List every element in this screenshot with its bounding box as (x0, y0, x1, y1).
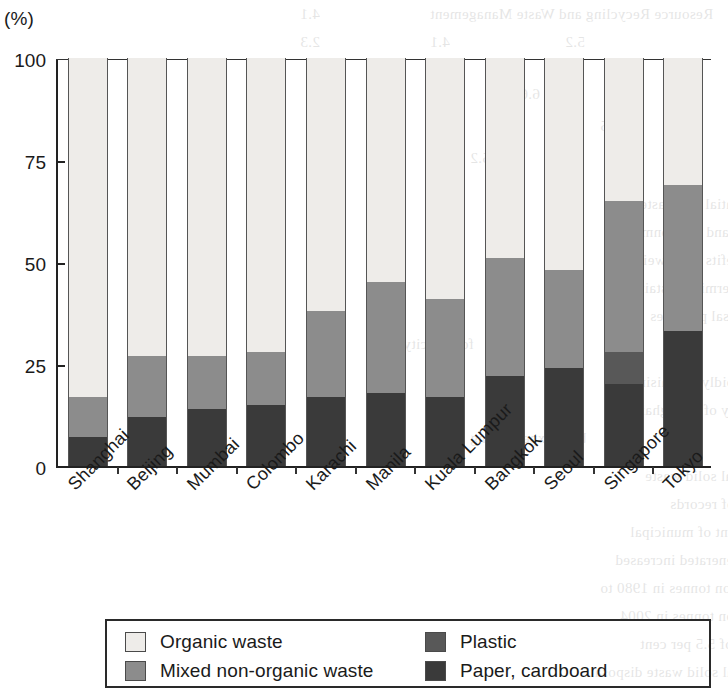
bar-segment-mixed (247, 352, 285, 405)
bar-colombo (246, 58, 286, 466)
legend-label: Paper, cardboard (460, 660, 607, 682)
bar-segment-organic (367, 58, 405, 282)
y-tick-label: 0 (0, 459, 46, 478)
bar-tokyo (663, 58, 703, 466)
x-tick-mark (176, 467, 178, 474)
bar-segment-organic (128, 58, 166, 356)
y-tick-label: 50 (0, 255, 46, 274)
bar-segment-organic (426, 58, 464, 299)
bar-manila (366, 58, 406, 466)
bar-segment-organic (486, 58, 524, 258)
x-tick-mark (414, 467, 416, 474)
bar-segment-mixed (426, 299, 464, 397)
bar-segment-mixed (188, 356, 226, 409)
legend-column-left: Organic wasteMixed non-organic waste (125, 627, 374, 685)
bar-segment-mixed (307, 311, 345, 397)
x-tick-mark (593, 467, 595, 474)
y-tick-label: 100 (0, 51, 46, 70)
bar-segment-organic (545, 58, 583, 270)
legend-column-right: PlasticPaper, cardboard (425, 627, 607, 685)
legend-label: Plastic (460, 631, 517, 653)
bar-segment-plastic (605, 352, 643, 385)
legend-swatch-mixed-icon (125, 661, 146, 681)
legend-item-paper[interactable]: Paper, cardboard (425, 656, 607, 685)
bar-segment-mixed (605, 201, 643, 352)
legend-swatch-paper-icon (425, 661, 446, 681)
bar-segment-mixed (128, 356, 166, 417)
legend-label: Organic waste (160, 631, 283, 653)
y-axis-unit-label: (%) (4, 8, 34, 30)
x-tick-mark (533, 467, 535, 474)
bar-mumbai (187, 58, 227, 466)
y-tick-label: 25 (0, 357, 46, 376)
bar-beijing (127, 58, 167, 466)
bar-segment-organic (664, 58, 702, 184)
bar-seoul (544, 58, 584, 466)
legend-item-mixed[interactable]: Mixed non-organic waste (125, 656, 374, 685)
x-tick-mark (652, 467, 654, 474)
bar-segment-mixed (367, 282, 405, 392)
legend-swatch-organic-icon (125, 632, 146, 652)
bar-shanghai (68, 58, 108, 466)
bar-segment-organic (247, 58, 285, 352)
legend-label: Mixed non-organic waste (160, 660, 374, 682)
stacked-bar-chart: (%) 1007550250 ShanghaiBeijingMumbaiColo… (0, 0, 728, 688)
x-tick-mark (474, 467, 476, 474)
bar-segment-mixed (545, 270, 583, 368)
bar-singapore (604, 58, 644, 466)
x-tick-mark (236, 467, 238, 474)
legend-item-plastic[interactable]: Plastic (425, 627, 607, 656)
bar-karachi (306, 58, 346, 466)
chart-legend: Organic wasteMixed non-organic waste Pla… (105, 619, 711, 688)
plot-area (56, 60, 711, 468)
x-tick-mark (355, 467, 357, 474)
legend-swatch-plastic-icon (425, 632, 446, 652)
bar-segment-organic (605, 58, 643, 201)
bar-segment-organic (69, 58, 107, 397)
bar-segment-mixed (486, 258, 524, 376)
x-tick-mark (295, 467, 297, 474)
legend-item-organic[interactable]: Organic waste (125, 627, 374, 656)
bar-segment-organic (188, 58, 226, 356)
y-tick-label: 75 (0, 153, 46, 172)
bar-segment-mixed (69, 397, 107, 438)
bar-segment-organic (307, 58, 345, 311)
bar-kuala-lumpur (425, 58, 465, 466)
x-tick-mark (117, 467, 119, 474)
bar-segment-paper (664, 331, 702, 466)
bar-segment-mixed (664, 185, 702, 332)
